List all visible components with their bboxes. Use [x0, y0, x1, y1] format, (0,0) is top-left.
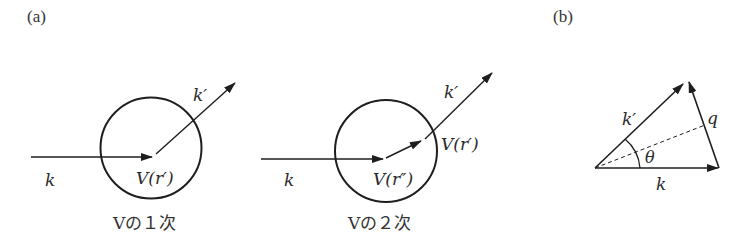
- second-order-diagram: k k′ V(r″) V(r′) Vの２次: [261, 73, 492, 233]
- momentum-transfer-triangle: k′ q θ k: [595, 82, 719, 194]
- outgoing-k-prime-label: k′: [193, 85, 207, 105]
- panel-a-label: (a): [27, 7, 46, 26]
- incoming-k-label: k: [45, 170, 55, 190]
- scattering-diagram: (a) k k′ V(r′) Vの１次 k k′ V(r″) V(r′) Vの２…: [0, 0, 750, 248]
- incoming-k-label: k: [284, 170, 294, 190]
- angle-theta-arc: [625, 139, 640, 168]
- intermediate-wave-arrow: [386, 141, 421, 158]
- panel-b-label: (b): [553, 7, 573, 26]
- potential-label: V(r′): [136, 168, 174, 188]
- q-label: q: [707, 108, 718, 128]
- k-label: k: [656, 174, 666, 194]
- first-order-diagram: k k′ V(r′) Vの１次: [31, 83, 235, 233]
- first-order-caption: Vの１次: [112, 213, 176, 233]
- k-prime-label: k′: [622, 109, 636, 129]
- vector-k-prime-arrow: [595, 84, 683, 168]
- first-scatter-potential-label: V(r″): [373, 169, 413, 189]
- theta-label: θ: [645, 148, 655, 167]
- second-order-caption: Vの２次: [347, 213, 411, 233]
- outgoing-k-prime-label: k′: [444, 82, 458, 102]
- second-scatter-potential-label: V(r′): [441, 134, 479, 154]
- outgoing-wave-arrow: [425, 73, 492, 139]
